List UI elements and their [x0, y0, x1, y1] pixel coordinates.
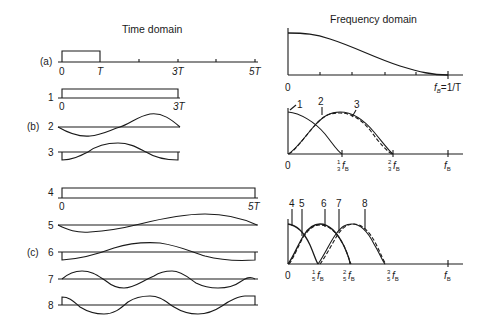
row-label-8: 8	[48, 300, 54, 311]
tick-label-three-fifths-fB: 3 5 fB	[387, 269, 399, 282]
svg-text:1: 1	[312, 269, 316, 275]
tick-label-0: 0	[59, 101, 65, 112]
row-label-4: 4	[48, 187, 54, 198]
tick-label-T: T	[97, 66, 104, 77]
svg-text:2: 2	[388, 159, 392, 165]
curve-label-2: 2	[318, 96, 324, 107]
curve-label-4: 4	[289, 198, 295, 209]
tick-label-0: 0	[285, 160, 291, 171]
sinc-spectrum-a	[288, 33, 448, 75]
curve-label-1: 1	[297, 99, 303, 110]
basis-function-1	[62, 89, 178, 98]
time-domain-title: Time domain	[122, 23, 182, 35]
tick-label-5T: 5T	[248, 201, 261, 212]
time-panel-b: 1 0 3T (b) 2 3	[27, 89, 186, 160]
svg-text:fB: fB	[392, 270, 399, 282]
spectrum-curve-2	[288, 112, 393, 154]
tick-label-two-thirds-fB: 2 3 fB	[388, 159, 400, 172]
panel-label-c: (c)	[27, 247, 39, 258]
frequency-domain-title: Frequency domain	[330, 13, 417, 25]
svg-text:3: 3	[387, 269, 391, 275]
curve-label-3: 3	[354, 99, 360, 110]
tick-label-one-fifth-fB: 1 5 fB	[312, 269, 324, 282]
svg-text:5: 5	[387, 276, 391, 282]
curve-label-5: 5	[299, 198, 305, 209]
fourier-diagram: Time domain Frequency domain (a) 0 T 3T …	[0, 0, 496, 334]
tick-label-one-third-fB: 1 3 fB	[337, 159, 349, 172]
svg-text:1: 1	[337, 159, 341, 165]
rect-pulse-a	[62, 51, 100, 62]
leader-line	[290, 105, 296, 110]
curve-label-6: 6	[321, 198, 327, 209]
basis-function-4	[62, 188, 255, 198]
row-label-6: 6	[48, 247, 54, 258]
tick-label-3T: 3T	[173, 101, 186, 112]
basis-function-5	[58, 214, 257, 232]
basis-function-2	[58, 114, 180, 136]
tick-label-0: 0	[59, 66, 65, 77]
row-label-5: 5	[48, 220, 54, 231]
tick-label-0: 0	[59, 201, 65, 212]
tick-label-two-fifths-fB: 2 5 fB	[343, 269, 355, 282]
svg-text:fB: fB	[317, 270, 324, 282]
svg-text:fB: fB	[393, 160, 400, 172]
curve-label-8: 8	[362, 198, 368, 209]
curve-label-7: 7	[336, 198, 342, 209]
row-label-1: 1	[48, 92, 54, 103]
time-panel-c: 4 0 5T 5 (c) 6 7 8	[27, 187, 261, 314]
panel-label-b: (b)	[27, 121, 39, 132]
tick-label-5T: 5T	[249, 66, 262, 77]
tick-label-0: 0	[285, 82, 291, 93]
spectrum-curve-3	[289, 113, 392, 154]
row-label-7: 7	[48, 274, 54, 285]
svg-text:fB: fB	[342, 160, 349, 172]
frequency-panel-b: 1 2 3 0 1 3 fB 2 3 fB fB	[285, 96, 463, 172]
tick-label-fB: fB	[444, 160, 451, 172]
frequency-panel-a: 0 fB=1/T	[285, 28, 463, 94]
row-label-2: 2	[48, 121, 54, 132]
spectrum-curve-8	[318, 224, 385, 264]
panel-label-a: (a)	[40, 56, 52, 67]
svg-text:3: 3	[337, 166, 341, 172]
svg-text:2: 2	[343, 269, 347, 275]
svg-text:5: 5	[312, 276, 316, 282]
svg-text:fB: fB	[348, 270, 355, 282]
row-label-3: 3	[48, 147, 54, 158]
tick-label-0: 0	[285, 270, 291, 281]
svg-text:3: 3	[388, 166, 392, 172]
frequency-panel-c: 4 5 6 7 8 0 1 5 fB 2 5 fB 3 5 fB fB	[285, 198, 463, 282]
tick-label-fB: fB	[444, 270, 451, 282]
svg-text:5: 5	[343, 276, 347, 282]
tick-label-3T: 3T	[172, 66, 185, 77]
tick-label-fB: fB=1/T	[434, 82, 461, 94]
time-panel-a: (a) 0 T 3T 5T	[40, 51, 262, 77]
